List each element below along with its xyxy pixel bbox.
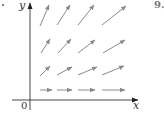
vector-arrow-icon	[78, 5, 94, 25]
vector-arrow-icon	[40, 66, 50, 76]
vector-field-plot	[0, 0, 164, 114]
vector-arrow-icon	[57, 67, 72, 75]
vector-arrow-icon	[41, 39, 50, 53]
vector-arrow-icon	[78, 40, 95, 53]
vector-arrow-icon	[102, 66, 124, 75]
vector-arrow-icon	[103, 40, 125, 53]
vector-arrow-icon	[102, 6, 126, 25]
vector-arrow-icon	[40, 5, 49, 26]
vector-arrow-icon	[78, 67, 97, 75]
axes	[12, 3, 138, 110]
vector-arrow-icon	[57, 5, 70, 25]
vector-arrow-icon	[58, 39, 71, 53]
vector-arrows	[40, 5, 126, 90]
